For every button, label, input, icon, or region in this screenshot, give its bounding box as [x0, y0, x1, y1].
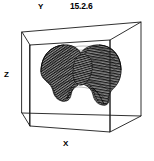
figure-3d-surface-plot: 15.2.6 Y X Z	[0, 0, 154, 161]
plot-title: 15.2.6	[70, 2, 92, 11]
plot-canvas	[0, 0, 154, 161]
box-edge-top-right-depth	[110, 22, 141, 40]
surface-mesh	[41, 45, 121, 105]
box-edge-bottom-right-depth	[110, 116, 141, 132]
axis-label-x: X	[63, 140, 68, 148]
box-edge-top-left-depth	[22, 32, 30, 45]
axis-label-y: Y	[38, 3, 43, 11]
box-edge-bottom-left-depth	[22, 113, 30, 126]
axis-label-z: Z	[4, 71, 9, 79]
